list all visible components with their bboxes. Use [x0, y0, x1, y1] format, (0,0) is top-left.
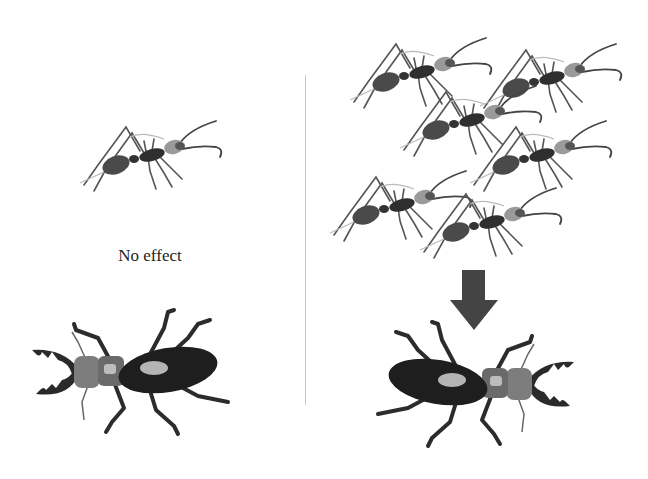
- down-arrow-icon: [450, 270, 498, 330]
- stag-beetle-left: [32, 310, 228, 434]
- ant: [470, 121, 611, 191]
- ant: [350, 38, 491, 108]
- ant-single: [80, 121, 221, 191]
- panel-divider: [305, 75, 306, 405]
- no-effect-caption: No effect: [100, 246, 200, 266]
- ant-swarm: [330, 38, 621, 258]
- right-panel: [330, 38, 621, 446]
- ant: [400, 86, 541, 156]
- ant: [480, 44, 621, 114]
- figure: No effect: [0, 0, 648, 479]
- stag-beetle-right: [378, 322, 574, 446]
- figure-canvas: [0, 0, 648, 479]
- ant: [420, 188, 561, 258]
- left-panel: [32, 121, 228, 434]
